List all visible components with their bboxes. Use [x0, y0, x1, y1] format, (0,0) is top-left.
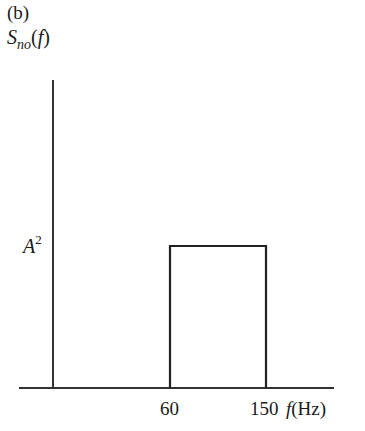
- x-tick-60: 60: [160, 398, 179, 420]
- x-label-unit: (Hz): [291, 398, 326, 419]
- x-tick-150: 150: [250, 398, 279, 420]
- rectangular-spectrum: [170, 246, 266, 388]
- spectrum-plot: [0, 0, 365, 431]
- x-axis-label: f(Hz): [286, 398, 326, 420]
